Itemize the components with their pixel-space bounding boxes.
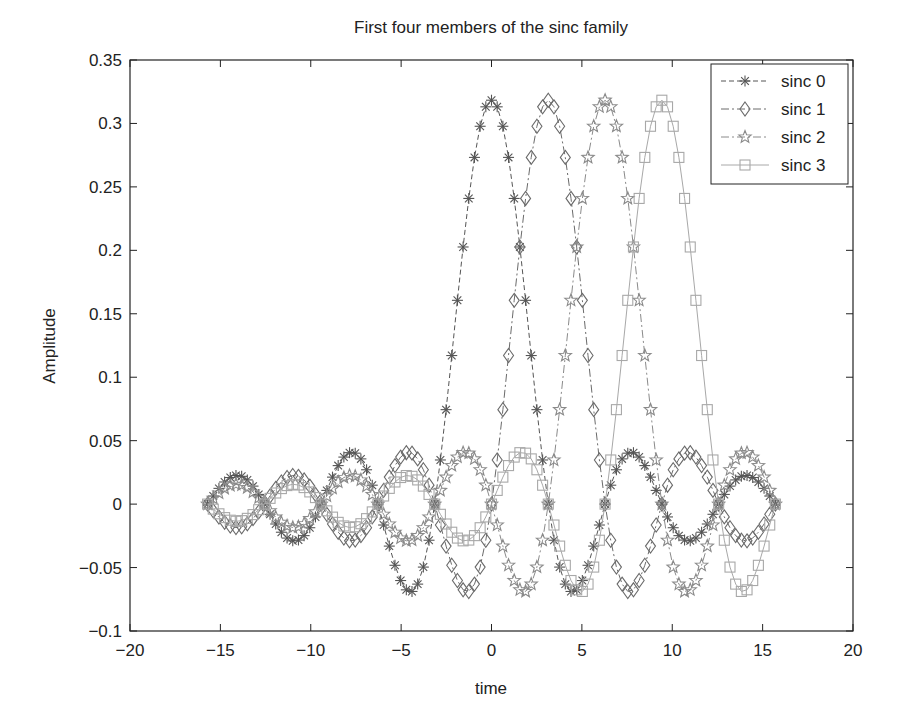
asterisk-marker [560,579,571,590]
y-tick-label: −0.05 [79,559,122,578]
y-tick-label: 0 [113,495,122,514]
x-tick-label: −15 [206,641,235,660]
asterisk-marker [531,404,542,415]
x-tick-label: 10 [663,641,682,660]
asterisk-marker [333,460,344,471]
y-tick-label: 0.2 [98,241,122,260]
legend: sinc 0sinc 1sinc 2sinc 3 [711,64,848,184]
asterisk-marker [736,471,747,482]
asterisk-marker [673,530,684,541]
y-tick-label: 0.1 [98,368,122,387]
asterisk-marker [520,295,531,306]
asterisk-marker [747,472,758,483]
asterisk-marker [583,560,594,571]
y-tick-label: 0.15 [89,305,122,324]
x-tick-label: −5 [391,641,410,660]
legend-label: sinc 2 [781,128,825,147]
asterisk-marker [418,562,429,573]
x-tick-label: 20 [844,641,863,660]
x-tick-label: 15 [753,641,772,660]
chart-title: First four members of the sinc family [354,18,628,37]
asterisk-marker [458,241,469,252]
asterisk-marker [740,76,751,87]
x-tick-label: 5 [577,641,586,660]
chart: First four members of the sinc family −2… [0,0,899,718]
y-tick-label: 0.05 [89,432,122,451]
asterisk-marker [299,530,310,541]
legend-label: sinc 0 [781,72,825,91]
asterisk-marker [526,350,537,361]
asterisk-marker [594,520,605,531]
asterisk-marker [395,575,406,586]
asterisk-marker [696,527,707,538]
asterisk-marker [452,295,463,306]
asterisk-marker [424,535,435,546]
asterisk-marker [492,101,503,112]
y-tick-label: 0.3 [98,114,122,133]
y-axis-label: Amplitude [40,308,59,384]
y-tick-label: −0.1 [88,622,122,641]
x-tick-label: −20 [116,641,145,660]
legend-label: sinc 1 [781,100,825,119]
x-tick-label: 0 [487,641,496,660]
asterisk-marker [480,101,491,112]
y-tick-label: 0.25 [89,178,122,197]
y-tick-label: 0.35 [89,51,122,70]
asterisk-marker [645,472,656,483]
asterisk-marker [554,562,565,573]
x-tick-label: −10 [296,641,325,660]
legend-label: sinc 3 [781,156,825,175]
asterisk-marker [668,522,679,533]
asterisk-marker [639,460,650,471]
asterisk-marker [389,560,400,571]
asterisk-marker [679,535,690,546]
asterisk-marker [486,95,497,106]
x-axis-label: time [475,679,507,698]
